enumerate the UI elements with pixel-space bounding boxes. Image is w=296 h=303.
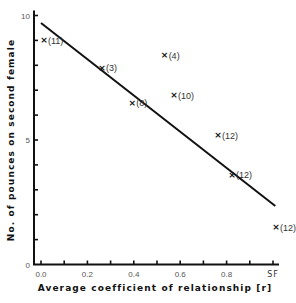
sample-size-label: (10) [178,91,194,101]
scatter-chart: 0510 0.00.20.40.60.8SF ×(11)×(3)×(8)×(4)… [0,0,296,303]
sample-size-label: (12) [236,170,252,180]
x-marker-icon: × [128,98,136,108]
data-point: ×(3) [98,63,117,74]
x-axis-title: Average coefficient of relationship [r] [38,283,273,293]
sample-size-label: (11) [48,36,63,46]
x-tick-label: 0.2 [82,270,94,279]
sample-size-label: (12) [222,131,238,141]
y-tick-label: 5 [26,136,31,145]
data-points: ×(11)×(3)×(8)×(4)×(10)×(12)×(12)×(12) [40,35,296,232]
sample-size-label: (3) [106,63,117,73]
sample-size-label: (12) [280,223,296,233]
x-marker-icon: × [98,63,106,73]
x-tick-label: 0.0 [35,270,47,279]
y-tick-label: 0 [26,261,31,270]
sample-size-label: (8) [136,98,147,108]
x-marker-icon: × [161,50,169,60]
y-axis: 0510 [21,11,38,270]
x-marker-icon: × [214,130,222,140]
data-point: ×(12) [214,130,238,141]
x-tick-label: SF [267,270,279,279]
x-marker-icon: × [228,170,236,180]
x-axis: 0.00.20.40.60.8SF [33,261,279,280]
x-tick-label: 0.8 [221,270,233,279]
x-tick-label: 0.6 [175,270,187,279]
data-point: ×(11) [40,35,63,46]
x-marker-icon: × [40,35,48,45]
y-axis-title: No. of pounces on second female [6,39,16,241]
sample-size-label: (4) [169,51,180,61]
data-point: ×(12) [228,170,252,181]
x-marker-icon: × [170,90,178,100]
x-marker-icon: × [272,222,280,232]
data-point: ×(10) [170,90,194,101]
x-tick-label: 0.4 [128,270,140,279]
data-point: ×(12) [272,222,296,233]
y-tick-label: 10 [21,12,30,21]
data-point: ×(8) [128,98,147,109]
data-point: ×(4) [161,50,180,61]
